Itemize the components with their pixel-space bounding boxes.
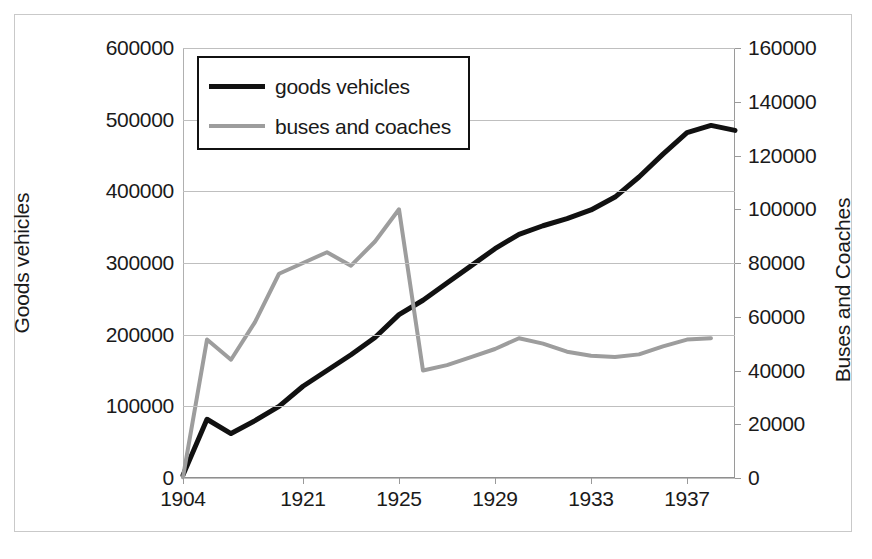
y-axis-right-tick-label: 140000 (748, 90, 816, 114)
x-axis-tick (303, 478, 304, 484)
y-axis-right-tick-label: 100000 (748, 197, 816, 221)
legend-item-goods-vehicles: goods vehicles (209, 66, 458, 106)
x-axis-tick (495, 478, 496, 484)
y-axis-right-tick (735, 209, 741, 210)
y-axis-left-tick-label: 400000 (106, 179, 174, 203)
x-axis-tick-label: 1929 (472, 487, 518, 511)
legend-label-goods-vehicles: goods vehicles (275, 76, 410, 97)
x-axis-tick-label: 1904 (160, 487, 206, 511)
y-axis-right-tick-label: 20000 (748, 412, 805, 436)
grid-line (183, 478, 735, 479)
x-axis-tick-label: 1925 (376, 487, 422, 511)
y-axis-right-tick-label: 160000 (748, 36, 816, 60)
y-axis-right-tick (735, 156, 741, 157)
y-axis-right-tick-label: 80000 (748, 251, 805, 275)
y-axis-right-title: Buses and Coaches (831, 198, 855, 383)
legend-item-buses-and-coaches: buses and coaches (209, 106, 458, 146)
x-axis-tick (399, 478, 400, 484)
series-line-buses-and-coaches (183, 209, 711, 477)
legend-swatch-goods-vehicles (209, 84, 265, 89)
y-axis-left-tick-label: 500000 (106, 108, 174, 132)
chart-legend: goods vehicles buses and coaches (197, 56, 470, 150)
y-axis-right-tick (735, 317, 741, 318)
x-axis-tick-labels: 190419211925192919331937 (0, 487, 872, 527)
grid-line (183, 406, 735, 407)
x-axis-tick-label: 1921 (280, 487, 326, 511)
y-axis-left-tick-label: 300000 (106, 251, 174, 275)
y-axis-left-tick-label: 100000 (106, 394, 174, 418)
y-axis-right-tick (735, 48, 741, 49)
x-axis-tick (687, 478, 688, 484)
x-axis-tick-label: 1933 (568, 487, 614, 511)
y-axis-left-tick-label: 600000 (106, 36, 174, 60)
x-axis-tick-label: 1937 (664, 487, 710, 511)
y-axis-right-tick-label: 40000 (748, 359, 805, 383)
y-axis-right-tick (735, 478, 741, 479)
grid-line (183, 335, 735, 336)
y-axis-right-tick-label: 120000 (748, 144, 816, 168)
y-axis-right-tick (735, 371, 741, 372)
grid-line (183, 263, 735, 264)
grid-line (183, 48, 735, 49)
y-axis-right-tick (735, 424, 741, 425)
y-axis-left-tick-label: 200000 (106, 323, 174, 347)
legend-swatch-buses-and-coaches (209, 124, 265, 128)
grid-line (183, 191, 735, 192)
y-axis-left-title: Goods vehicles (10, 193, 34, 334)
y-axis-right-tick (735, 263, 741, 264)
y-axis-right-tick-label: 60000 (748, 305, 805, 329)
x-axis-tick (591, 478, 592, 484)
x-axis-tick (183, 478, 184, 484)
y-axis-right-tick (735, 102, 741, 103)
legend-label-buses-and-coaches: buses and coaches (275, 116, 451, 137)
chart-page: 0100000200000300000400000500000600000 02… (0, 0, 872, 559)
